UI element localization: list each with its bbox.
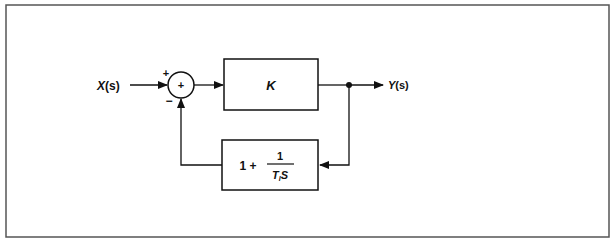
minus-sign-label: − bbox=[165, 94, 172, 108]
feedback-block bbox=[222, 140, 318, 190]
feedback-signal-line bbox=[181, 99, 222, 165]
feedback-denominator: TIS bbox=[272, 169, 289, 182]
block-diagram: X(s) + + − K Y(s) 1 + 1 TIS bbox=[0, 0, 613, 240]
feedback-prefix: 1 + bbox=[239, 159, 256, 173]
input-label: X(s) bbox=[96, 79, 120, 93]
input-label-arg: (s) bbox=[105, 79, 120, 93]
feedback-return-line bbox=[320, 85, 349, 165]
plus-sign-label: + bbox=[163, 67, 169, 79]
summing-junction-symbol: + bbox=[178, 79, 184, 91]
outer-frame bbox=[6, 5, 609, 237]
forward-gain-label: K bbox=[266, 78, 277, 93]
output-label: Y(s) bbox=[388, 79, 409, 91]
feedback-numerator: 1 bbox=[277, 150, 283, 162]
